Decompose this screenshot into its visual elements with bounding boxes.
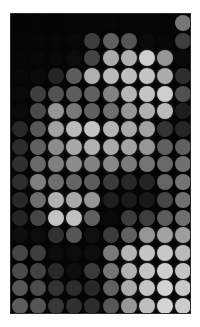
- halftone-dot: [30, 280, 46, 296]
- halftone-dot: [175, 174, 191, 190]
- halftone-dot: [12, 33, 28, 49]
- halftone-dot: [139, 227, 155, 243]
- halftone-dot: [121, 210, 137, 226]
- halftone-dot: [48, 121, 64, 137]
- halftone-dot: [139, 263, 155, 279]
- halftone-dot: [121, 86, 137, 102]
- halftone-dot: [175, 192, 191, 208]
- halftone-dot: [84, 245, 100, 261]
- halftone-dot: [103, 210, 119, 226]
- halftone-dot: [66, 15, 82, 31]
- halftone-dot: [175, 156, 191, 172]
- halftone-dot: [48, 263, 64, 279]
- halftone-dot: [139, 174, 155, 190]
- halftone-dot: [84, 192, 100, 208]
- halftone-dot: [66, 174, 82, 190]
- halftone-dot: [121, 245, 137, 261]
- halftone-dot: [84, 156, 100, 172]
- halftone-dot: [103, 192, 119, 208]
- halftone-dot: [12, 50, 28, 66]
- halftone-dot: [84, 280, 100, 296]
- halftone-dot: [12, 298, 28, 314]
- halftone-dot: [157, 263, 173, 279]
- halftone-dot: [139, 210, 155, 226]
- halftone-dot: [30, 33, 46, 49]
- halftone-dot: [157, 210, 173, 226]
- halftone-dot: [84, 263, 100, 279]
- halftone-dot: [12, 103, 28, 119]
- halftone-dot: [66, 192, 82, 208]
- halftone-dot: [175, 280, 191, 296]
- halftone-dot: [30, 121, 46, 137]
- halftone-dot: [66, 121, 82, 137]
- halftone-dot: [30, 227, 46, 243]
- halftone-dot: [157, 174, 173, 190]
- halftone-dot: [175, 139, 191, 155]
- halftone-dot: [48, 139, 64, 155]
- halftone-dot: [12, 139, 28, 155]
- halftone-dot: [12, 15, 28, 31]
- halftone-dot: [175, 103, 191, 119]
- halftone-dot: [30, 103, 46, 119]
- halftone-dot: [103, 15, 119, 31]
- halftone-dot: [157, 139, 173, 155]
- halftone-dot: [48, 174, 64, 190]
- halftone-dot: [139, 139, 155, 155]
- halftone-dot: [30, 86, 46, 102]
- dot-matrix-plot: [10, 13, 191, 314]
- halftone-dot: [30, 156, 46, 172]
- halftone-dot: [48, 210, 64, 226]
- halftone-dot: [66, 245, 82, 261]
- halftone-dot: [157, 227, 173, 243]
- halftone-dot: [103, 156, 119, 172]
- halftone-dot: [30, 192, 46, 208]
- halftone-dot: [84, 121, 100, 137]
- halftone-dot: [30, 139, 46, 155]
- halftone-dot: [175, 245, 191, 261]
- halftone-dot: [12, 210, 28, 226]
- halftone-dot: [103, 298, 119, 314]
- halftone-dot: [139, 33, 155, 49]
- halftone-dot: [139, 156, 155, 172]
- halftone-dot: [175, 68, 191, 84]
- halftone-dot: [66, 298, 82, 314]
- halftone-dot: [30, 245, 46, 261]
- halftone-dot: [175, 121, 191, 137]
- halftone-dot: [103, 121, 119, 137]
- halftone-dot: [121, 139, 137, 155]
- halftone-dot: [121, 33, 137, 49]
- halftone-dot: [30, 174, 46, 190]
- halftone-dot: [175, 298, 191, 314]
- halftone-dot: [84, 15, 100, 31]
- halftone-dot: [84, 227, 100, 243]
- halftone-dot: [103, 50, 119, 66]
- halftone-dot: [103, 227, 119, 243]
- halftone-dot: [12, 121, 28, 137]
- halftone-dot: [12, 156, 28, 172]
- halftone-dot: [157, 68, 173, 84]
- halftone-dot: [157, 86, 173, 102]
- halftone-dot: [121, 15, 137, 31]
- halftone-dot: [66, 210, 82, 226]
- halftone-dot: [103, 86, 119, 102]
- halftone-dot: [48, 227, 64, 243]
- halftone-dot: [66, 139, 82, 155]
- halftone-dot: [12, 86, 28, 102]
- halftone-dot: [12, 280, 28, 296]
- halftone-dot: [139, 15, 155, 31]
- halftone-dot: [157, 50, 173, 66]
- halftone-dot: [66, 33, 82, 49]
- halftone-dot: [139, 192, 155, 208]
- halftone-dot: [157, 156, 173, 172]
- halftone-dot: [66, 86, 82, 102]
- halftone-dot: [12, 245, 28, 261]
- halftone-dot: [48, 33, 64, 49]
- halftone-dot: [139, 121, 155, 137]
- halftone-dot: [48, 50, 64, 66]
- halftone-dot: [30, 50, 46, 66]
- halftone-dot: [66, 227, 82, 243]
- halftone-dot: [121, 227, 137, 243]
- halftone-dot: [103, 280, 119, 296]
- halftone-dot: [84, 33, 100, 49]
- halftone-dot: [84, 86, 100, 102]
